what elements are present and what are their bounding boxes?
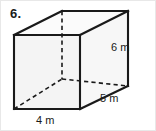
dimension-label-depth: 5 m <box>100 93 118 104</box>
dimension-label-height: 6 m <box>111 42 129 53</box>
prism-front-face <box>14 35 80 109</box>
rectangular-prism-figure <box>1 1 156 131</box>
figure-page: 6. 6 m 5 m 4 m <box>0 0 156 131</box>
dimension-label-width: 4 m <box>36 115 54 126</box>
problem-number: 6. <box>10 7 21 20</box>
